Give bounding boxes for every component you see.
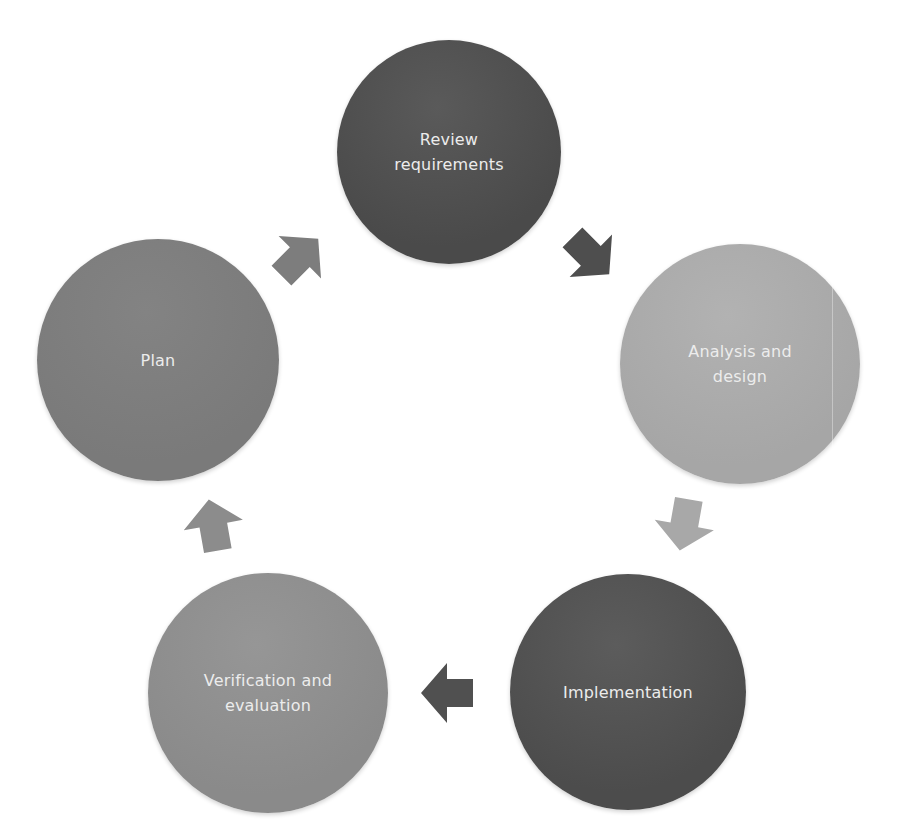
arrow-icon [411, 653, 491, 733]
node-label: Verification and evaluation [180, 668, 356, 718]
arrow-icon [168, 483, 261, 576]
node-label: Analysis and design [664, 339, 816, 389]
seam-line [832, 262, 833, 467]
node-implementation: Implementation [510, 574, 746, 810]
node-label: Implementation [539, 680, 717, 705]
node-review-requirements: Review requirements [337, 40, 561, 264]
node-label: Review requirements [370, 127, 527, 177]
arrow-icon [639, 475, 732, 568]
node-label: Plan [117, 348, 200, 373]
node-plan: Plan [37, 239, 279, 481]
node-verification-and-evaluation: Verification and evaluation [148, 573, 388, 813]
node-analysis-and-design: Analysis and design [620, 244, 860, 484]
arrow-icon [531, 196, 644, 309]
